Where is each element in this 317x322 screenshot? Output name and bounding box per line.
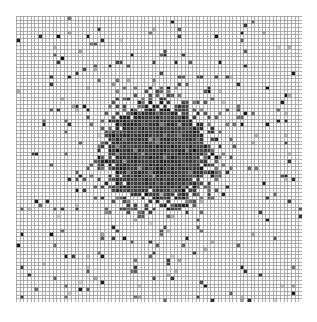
figure-root xyxy=(0,0,317,322)
heatmap-grid xyxy=(16,16,302,302)
plot-area xyxy=(16,16,302,302)
